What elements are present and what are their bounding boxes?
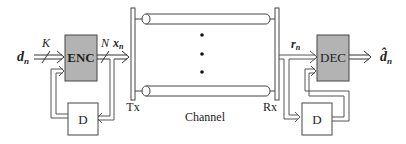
receiver: rn DEC d̂n D (279, 35, 392, 135)
channel-cable-bottom (135, 86, 275, 96)
rx-port-label: Rx (263, 100, 277, 114)
output-label-x: xn (112, 36, 124, 51)
channel-label: Channel (185, 110, 226, 124)
channel: Tx Rx Channel (126, 8, 279, 124)
decoder-label: DEC (320, 50, 346, 65)
encoder-output-arrow (97, 51, 129, 63)
transmitter: dn K ENC N xn (17, 35, 129, 135)
rx-delay-label: D (312, 112, 321, 127)
tx-port-label: Tx (126, 100, 139, 114)
input-width-label: K (41, 36, 51, 50)
encoder-label: ENC (67, 50, 94, 65)
input-arrow (34, 51, 64, 63)
output-label-dhat: d̂n (380, 47, 392, 66)
channel-cable-top (135, 14, 275, 24)
tx-delay-label: D (78, 112, 87, 127)
rx-input-label-r: rn (291, 37, 301, 52)
output-width-label: N (100, 36, 110, 50)
channel-ellipsis (200, 33, 204, 74)
rx-port-bar (275, 8, 279, 100)
communication-system-diagram: dn K ENC N xn (0, 0, 406, 144)
decoder-output-arrow (349, 51, 371, 63)
tx-feedback-to-delay (97, 59, 114, 123)
input-label-d: dn (17, 49, 29, 66)
tx-port-bar (131, 8, 135, 100)
